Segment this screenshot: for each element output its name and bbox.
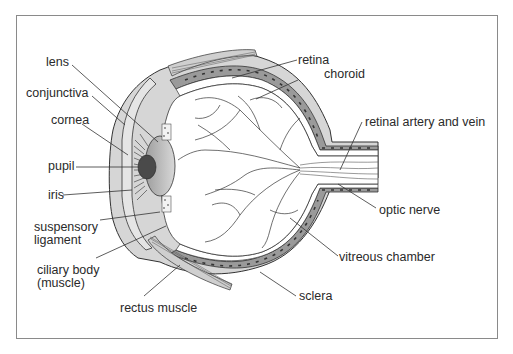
label-rectus-muscle: rectus muscle	[120, 302, 197, 315]
label-retinal-artery-and-vein: retinal artery and vein	[365, 116, 485, 129]
label-choroid: choroid	[324, 68, 365, 81]
pupil	[138, 155, 156, 179]
label-ciliary-body-line2: (muscle)	[37, 277, 85, 290]
label-sclera: sclera	[299, 290, 332, 303]
vitreous-chamber	[161, 84, 378, 256]
label-suspensory-ligament-line2: ligament	[34, 234, 81, 247]
label-cornea: cornea	[51, 114, 89, 127]
label-lens: lens	[46, 56, 69, 69]
label-pupil: pupil	[48, 160, 74, 173]
label-optic-nerve: optic nerve	[379, 204, 440, 217]
label-vitreous-chamber: vitreous chamber	[339, 251, 435, 264]
label-iris: iris	[48, 189, 64, 202]
eye-cross-section-illustration	[0, 0, 513, 354]
label-conjunctiva: conjunctiva	[26, 87, 89, 100]
label-retina: retina	[298, 54, 329, 67]
